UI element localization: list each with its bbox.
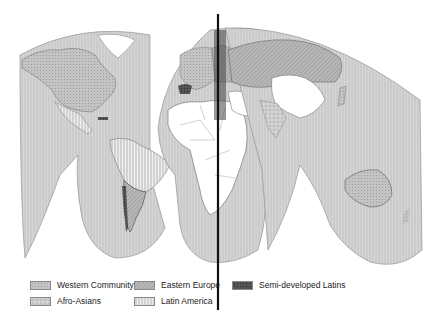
legend-item-semi-latins: Semi-developed Latins (232, 280, 345, 290)
legend-label: Latin America (161, 296, 213, 306)
legend-label: Afro-Asians (57, 296, 101, 306)
latin-america-swatch-icon (134, 297, 155, 306)
world-map (0, 0, 433, 323)
afro-asians-swatch-icon (30, 297, 51, 306)
western-swatch-icon (30, 281, 51, 290)
legend-item-afro-asians: Afro-Asians (30, 296, 101, 306)
legend-item-western: Western Community (30, 280, 134, 290)
legend-label: Semi-developed Latins (259, 280, 345, 290)
shaded-band (214, 30, 226, 120)
legend-label: Eastern Europe (161, 280, 220, 290)
eastern-swatch-icon (134, 281, 155, 290)
legend: Western Community Eastern Europe Semi-de… (30, 280, 410, 320)
legend-item-latin-america: Latin America (134, 296, 213, 306)
americas-lobe (20, 31, 170, 258)
semi-latins-swatch-icon (232, 281, 253, 290)
legend-item-eastern: Eastern Europe (134, 280, 220, 290)
legend-label: Western Community (57, 280, 134, 290)
